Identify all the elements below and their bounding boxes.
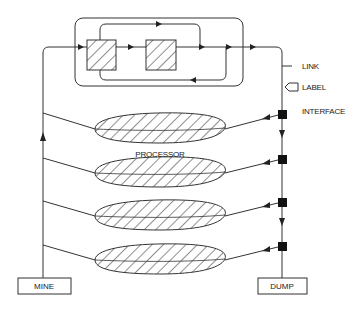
arrow-up-icon (40, 132, 46, 141)
arrow-right-icon (128, 44, 134, 50)
arrow-right-icon (199, 44, 205, 50)
legend-label-icon (285, 83, 298, 91)
pipeline-diagram: LINK LABEL INTERFACE PROCESSOR MINE DUMP (0, 0, 362, 311)
processor-4-output-link (225, 246, 282, 260)
arrow-right-icon (78, 44, 84, 50)
arrow-down-icon (279, 218, 285, 226)
processor-1-input-link (43, 113, 95, 129)
interface-4 (278, 242, 287, 251)
legend-label-text: LABEL (302, 83, 327, 92)
legend-link-text: LINK (302, 62, 320, 71)
mine-label: MINE (34, 282, 54, 291)
processor-3 (95, 200, 225, 230)
processor-label: PROCESSOR (135, 150, 185, 159)
legend-interface-text: INTERFACE (302, 107, 345, 116)
component-box-1 (87, 40, 116, 70)
arrow-left-icon (262, 202, 270, 208)
processor-3-input-link (43, 201, 95, 216)
processor-1 (95, 113, 225, 143)
interface-3 (278, 198, 287, 207)
main-input-link (43, 47, 87, 278)
processor-4 (95, 244, 225, 274)
arrow-right-icon (226, 44, 232, 50)
interface-2 (278, 155, 287, 164)
arrow-left-icon (262, 246, 270, 252)
processor-4-input-link (43, 245, 95, 260)
arrow-left-icon (262, 114, 270, 120)
arrow-down-icon (279, 130, 285, 138)
processor-2-input-link (43, 158, 95, 173)
processor-2 (95, 157, 225, 187)
processor-2-output-link (225, 159, 282, 173)
arrow-left-icon (190, 77, 196, 83)
dump-label: DUMP (270, 282, 294, 291)
arrow-right-icon (250, 44, 256, 50)
arrow-left-icon (262, 159, 270, 165)
processor-3-output-link (225, 202, 282, 216)
processor-1-output-link (225, 114, 282, 129)
interface-1 (278, 110, 287, 119)
component-box-2 (146, 40, 176, 70)
arrow-right-icon (156, 21, 162, 27)
